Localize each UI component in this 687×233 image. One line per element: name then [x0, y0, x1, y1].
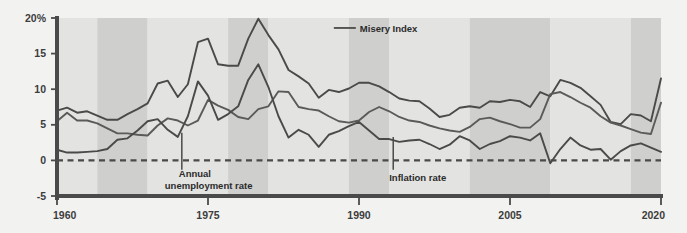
background-band	[57, 18, 97, 196]
y-tick-label: 15	[34, 47, 46, 59]
background-band	[349, 18, 389, 196]
x-tick-label: 1960	[53, 209, 77, 221]
background-band	[228, 18, 268, 196]
inflation-rate-label: Inflation rate	[389, 172, 446, 183]
background-band	[268, 18, 349, 196]
y-tick-label: 10	[34, 83, 46, 95]
x-tick-label: 2020	[642, 209, 666, 221]
chart-canvas: 20%151050-5 19601975199020052020 Misery …	[0, 0, 687, 233]
y-tick-label: 5	[40, 118, 46, 130]
background-band	[389, 18, 470, 196]
unemployment-label-line1: Annual	[179, 168, 211, 179]
y-tick-label: 0	[40, 154, 46, 166]
unemployment-label-line2: unemployment rate	[165, 180, 253, 191]
x-tick-label: 2005	[498, 209, 522, 221]
misery-index-chart: 20%151050-5 19601975199020052020 Misery …	[0, 0, 687, 233]
x-tick-label: 1975	[196, 209, 220, 221]
background-band	[631, 18, 661, 196]
background-bands	[57, 18, 661, 196]
misery-index-label: Misery Index	[360, 23, 418, 34]
y-tick-label: -5	[37, 190, 46, 202]
y-tick-label: 20%	[25, 12, 47, 24]
x-tick-label: 1990	[347, 209, 371, 221]
